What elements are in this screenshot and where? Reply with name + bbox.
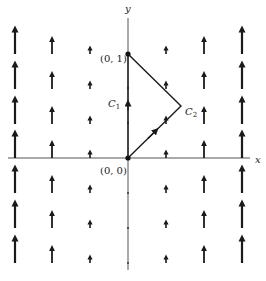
point-origin xyxy=(125,155,130,160)
axes: x y xyxy=(8,3,261,270)
vector-field-diagram: x y xyxy=(0,0,266,281)
label-point-0-1: (0, 1) xyxy=(100,53,127,64)
curve-c2 xyxy=(128,54,181,158)
label-c2: C2 xyxy=(185,106,197,119)
x-axis-label: x xyxy=(255,154,261,165)
label-point-0-0: (0, 0) xyxy=(100,165,127,176)
label-c1: C1 xyxy=(108,98,120,111)
y-axis-label: y xyxy=(124,3,131,14)
c2-direction-arrow xyxy=(148,131,156,139)
